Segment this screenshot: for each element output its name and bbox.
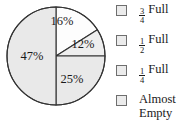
pie-chart-figure: 16% 12% 25% 47% 3 4 Full 1 <box>0 0 189 120</box>
fraction-3-4: 3 4 <box>139 7 145 24</box>
legend-word-full: Full <box>148 63 168 76</box>
pie-chart: 16% 12% 25% 47% <box>0 0 112 120</box>
legend-item-1-4-full[interactable]: 1 4 Full <box>112 63 168 83</box>
fraction-numerator: 3 <box>139 7 145 15</box>
pie-chart-svg: 16% 12% 25% 47% <box>0 0 112 120</box>
legend-label-1-2-full: 1 2 Full <box>139 33 168 53</box>
legend-item-almost-empty[interactable]: Almost Empty <box>112 93 176 120</box>
fraction-1-2: 1 2 <box>139 37 145 54</box>
fraction-1-4: 1 4 <box>139 67 145 84</box>
checkbox-icon-3-4-full[interactable] <box>116 5 127 16</box>
checkbox-icon-1-4-full[interactable] <box>116 65 127 76</box>
checkbox-icon-1-2-full[interactable] <box>116 35 127 46</box>
pie-slice-label-16-percent: 16% <box>51 14 74 28</box>
fraction-denominator: 4 <box>139 15 145 24</box>
legend-label-line-2: Empty <box>139 107 176 121</box>
legend-item-1-2-full[interactable]: 1 2 Full <box>112 33 168 53</box>
fraction-numerator: 1 <box>139 37 145 45</box>
legend-label-3-4-full: 3 4 Full <box>139 3 168 23</box>
fraction-numerator: 1 <box>139 67 145 75</box>
pie-slice-label-47-percent: 47% <box>21 49 44 63</box>
legend: 3 4 Full 1 2 Full 1 4 <box>112 0 189 120</box>
legend-word-full: Full <box>148 33 168 46</box>
checkbox-icon-almost-empty[interactable] <box>116 95 127 106</box>
legend-word-full: Full <box>148 3 168 16</box>
fraction-denominator: 4 <box>139 75 145 84</box>
pie-slice-label-25-percent: 25% <box>61 72 84 86</box>
legend-label-line-1: Almost <box>139 93 176 107</box>
legend-label-1-4-full: 1 4 Full <box>139 63 168 83</box>
legend-label-almost-empty: Almost Empty <box>139 93 176 120</box>
legend-item-3-4-full[interactable]: 3 4 Full <box>112 3 168 23</box>
fraction-denominator: 2 <box>139 45 145 54</box>
pie-slice-label-12-percent: 12% <box>72 37 95 51</box>
